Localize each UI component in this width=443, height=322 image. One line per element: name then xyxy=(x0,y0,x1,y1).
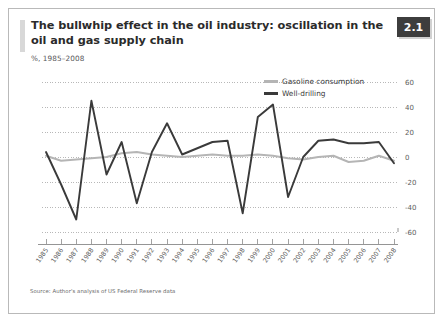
svg-text:2006: 2006 xyxy=(352,247,368,265)
svg-text:20: 20 xyxy=(405,129,414,137)
chart-legend: Gasoline consumption Well-drilling xyxy=(264,76,364,100)
svg-text:60: 60 xyxy=(405,79,414,87)
svg-text:-20: -20 xyxy=(405,179,416,187)
svg-text:40: 40 xyxy=(405,104,414,112)
legend-label-gasoline: Gasoline consumption xyxy=(282,77,364,86)
svg-text:1992: 1992 xyxy=(140,247,156,265)
svg-text:-60: -60 xyxy=(405,229,416,237)
svg-text:2000: 2000 xyxy=(261,247,277,265)
legend-swatch-gasoline-icon xyxy=(264,80,278,83)
svg-text:-40: -40 xyxy=(405,204,416,212)
svg-text:1988: 1988 xyxy=(80,247,96,265)
svg-text:2003: 2003 xyxy=(307,247,323,265)
legend-item-gasoline: Gasoline consumption xyxy=(264,76,364,87)
figure-container: The bullwhip effect in the oil industry:… xyxy=(0,0,443,322)
page-title: The bullwhip effect in the oil industry:… xyxy=(31,19,386,48)
svg-text:1996: 1996 xyxy=(201,247,217,265)
legend-label-well-drilling: Well-drilling xyxy=(282,89,326,98)
svg-text:0: 0 xyxy=(405,154,409,162)
chart-plot-area: 6040200-20-40-60198519861987198819891990… xyxy=(20,74,420,284)
svg-text:2001: 2001 xyxy=(276,247,292,265)
svg-text:2004: 2004 xyxy=(322,247,338,265)
svg-text:2002: 2002 xyxy=(291,247,307,265)
svg-text:1986: 1986 xyxy=(49,247,65,265)
svg-text:1987: 1987 xyxy=(65,247,81,265)
svg-text:1998: 1998 xyxy=(231,247,247,265)
chart-subtitle: %, 1985–2008 xyxy=(31,54,85,63)
svg-text:1989: 1989 xyxy=(95,247,111,265)
legend-item-well-drilling: Well-drilling xyxy=(264,88,364,99)
svg-text:1995: 1995 xyxy=(186,247,202,265)
svg-text:1990: 1990 xyxy=(110,247,126,265)
figure-number-badge: 2.1 xyxy=(397,17,430,37)
legend-swatch-well-drilling-icon xyxy=(264,92,278,95)
svg-text:1993: 1993 xyxy=(155,247,171,265)
line-chart-svg: 6040200-20-40-60198519861987198819891990… xyxy=(20,74,420,284)
svg-text:1985: 1985 xyxy=(34,247,50,265)
svg-text:1994: 1994 xyxy=(170,247,186,265)
svg-text:1997: 1997 xyxy=(216,247,232,265)
svg-text:2007: 2007 xyxy=(367,247,383,265)
svg-text:1991: 1991 xyxy=(125,247,141,265)
svg-text:2008: 2008 xyxy=(382,247,398,265)
svg-text:2005: 2005 xyxy=(337,247,353,265)
title-accent-bar xyxy=(20,20,25,52)
source-note: Source: Author's analysis of US Federal … xyxy=(30,288,175,294)
svg-text:1999: 1999 xyxy=(246,247,262,265)
